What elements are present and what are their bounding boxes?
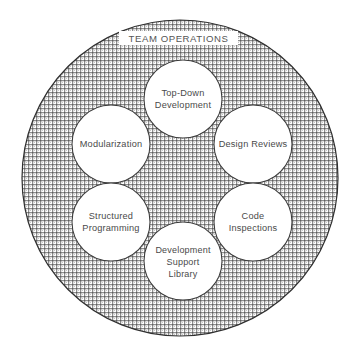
label-top-down-development-line1: Top-Down (162, 88, 205, 98)
label-modularization-line1: Modularization (80, 139, 143, 149)
outer-hatch-fill (0, 0, 357, 360)
label-code-inspections-line2: Inspections (229, 223, 278, 233)
diagram-root: TEAM OPERATIONS Top-Down Development Mod… (0, 0, 357, 360)
label-development-support-library-line2: Support (167, 257, 200, 267)
outer-title-group: TEAM OPERATIONS (119, 31, 238, 45)
node-circle-structured-programming[interactable] (72, 183, 150, 261)
label-design-reviews-line1: Design Reviews (219, 139, 288, 149)
team-operations-diagram: TEAM OPERATIONS Top-Down Development Mod… (0, 0, 357, 360)
diagram-title: TEAM OPERATIONS (129, 33, 229, 44)
label-top-down-development-line2: Development (155, 100, 212, 110)
label-structured-programming-line1: Structured (89, 211, 133, 221)
node-circle-code-inspections[interactable] (214, 183, 292, 261)
label-structured-programming-line2: Programming (82, 223, 139, 233)
label-development-support-library-line1: Development (155, 245, 211, 255)
outer-region-team-operations (0, 0, 357, 360)
node-circle-top-down-development[interactable] (144, 60, 222, 138)
label-development-support-library-line3: Library (169, 269, 198, 279)
label-code-inspections-line1: Code (242, 211, 265, 221)
